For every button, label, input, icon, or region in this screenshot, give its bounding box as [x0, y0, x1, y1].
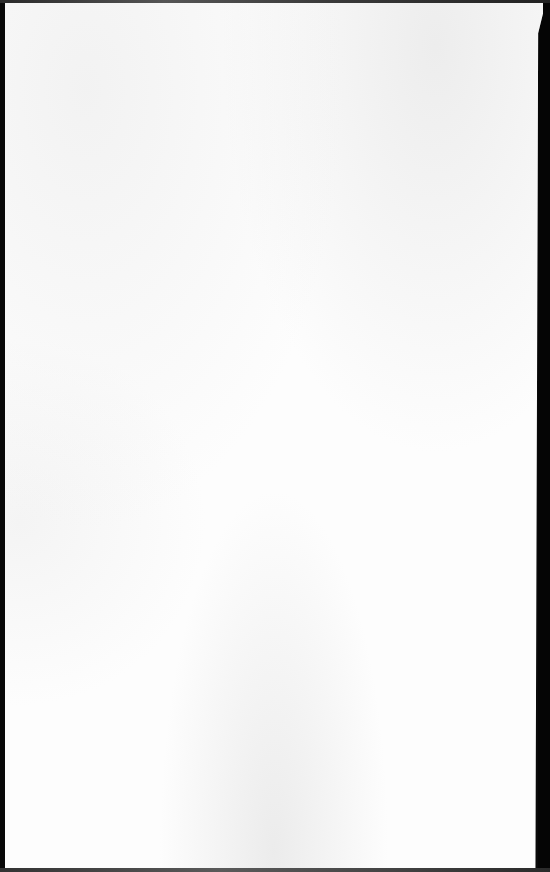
right-border [538, 0, 550, 872]
bottom-border [0, 868, 550, 872]
top-border [0, 0, 550, 3]
page-content [5, 3, 543, 868]
scanned-page-view [0, 0, 550, 872]
blank-paper-sheet [5, 3, 543, 868]
left-border [0, 0, 5, 872]
